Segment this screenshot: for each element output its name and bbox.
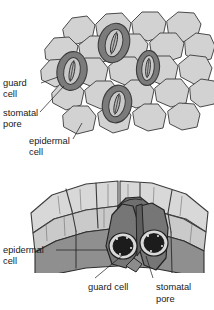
stomatal-pore-top-line1: stomatal: [3, 108, 38, 118]
pore-opening: [113, 237, 133, 256]
stomatal-pore-bottom-line1: stomatal: [156, 282, 191, 292]
pore-opening: [144, 234, 164, 253]
stomatal-pore-cutaway-right: [140, 230, 168, 256]
stomata-diagram-svg: guard cell stomatal pore epidermal cell: [0, 0, 214, 310]
guard-cell-top-line1: guard: [3, 78, 27, 88]
cutaway-view-panel: [31, 181, 208, 278]
epidermal-cell: [155, 79, 189, 107]
epidermal-cell-top-line1: epidermal: [29, 136, 70, 146]
epidermal-cell-bottom-line2: cell: [3, 256, 17, 266]
guard-cell-bottom-line1: guard cell: [88, 282, 128, 292]
stomatal-pore-top-line2: pore: [3, 119, 22, 129]
guard-cell-top-line2: cell: [3, 89, 17, 99]
epidermal-cell-top-line2: cell: [29, 147, 43, 157]
epidermal-cell: [168, 103, 200, 130]
surface-view-panel: [41, 12, 214, 134]
stomata-figure: guard cell stomatal pore epidermal cell: [0, 0, 214, 310]
stomatal-pore-bottom-line2: pore: [156, 294, 175, 304]
epidermal-cell-bottom-line1: epidermal: [3, 245, 44, 255]
